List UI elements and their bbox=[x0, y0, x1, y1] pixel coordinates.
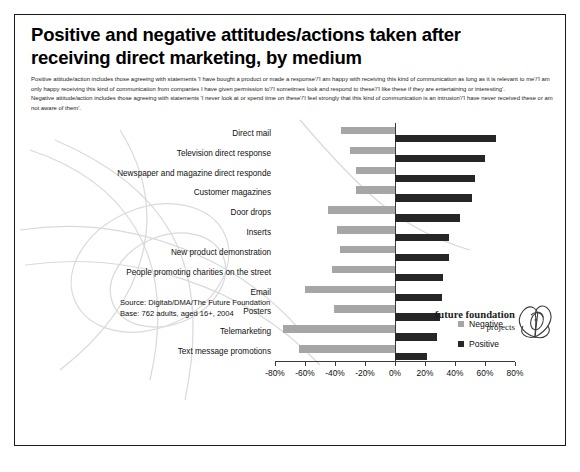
category-label: Newspaper and magazine direct responde bbox=[117, 168, 271, 177]
category-label: People promoting charities on the street bbox=[126, 267, 271, 276]
axis-tick bbox=[515, 362, 516, 366]
bar-positive bbox=[395, 194, 472, 201]
bar-negative bbox=[356, 167, 395, 174]
axis-tick-label: -40% bbox=[325, 368, 345, 378]
page-title: Positive and negative attitudes/actions … bbox=[31, 24, 531, 69]
category-label: Email bbox=[251, 287, 271, 296]
bar-negative bbox=[305, 286, 395, 293]
chart-notes: Positive attitude/action includes those … bbox=[31, 75, 553, 113]
bar-negative bbox=[340, 246, 396, 253]
bar-positive bbox=[395, 135, 496, 142]
bar-positive bbox=[395, 214, 460, 221]
bar-positive bbox=[395, 175, 475, 182]
base-line: Base: 762 adults, aged 16+, 2004 bbox=[120, 308, 270, 319]
axis-tick-label: -80% bbox=[265, 368, 285, 378]
axis-tick bbox=[275, 362, 276, 366]
chart-note-negative: Negative attitude/action includes those … bbox=[31, 94, 553, 113]
source-note: Source: Digitab/DMA/The Future Foundatio… bbox=[120, 297, 270, 319]
bar-positive bbox=[395, 155, 485, 162]
bar-positive bbox=[395, 353, 427, 360]
bar-negative bbox=[337, 226, 396, 233]
category-label: Inserts bbox=[246, 228, 271, 237]
source-line: Source: Digitab/DMA/The Future Foundatio… bbox=[120, 297, 270, 308]
axis-tick-label: 60% bbox=[477, 368, 494, 378]
axis-tick bbox=[335, 362, 336, 366]
logo-wordmark: future foundation bbox=[435, 309, 515, 320]
bar-positive bbox=[395, 254, 449, 261]
bar-negative bbox=[328, 206, 396, 213]
category-label: Text message promotions bbox=[178, 347, 271, 356]
axis-tick bbox=[395, 362, 396, 366]
bar-positive bbox=[395, 274, 443, 281]
slide-frame: Positive and negative attitudes/actions … bbox=[14, 14, 566, 446]
axis-tick-label: -20% bbox=[355, 368, 375, 378]
bar-negative bbox=[283, 325, 396, 332]
axis-tick bbox=[365, 362, 366, 366]
category-label: Direct mail bbox=[232, 128, 271, 137]
bar-negative bbox=[356, 186, 395, 193]
chart-note-positive: Positive attitude/action includes those … bbox=[31, 75, 553, 94]
axis-tick-label: 20% bbox=[417, 368, 434, 378]
butterfly-icon bbox=[511, 299, 559, 347]
axis-tick bbox=[455, 362, 456, 366]
bar-negative bbox=[334, 305, 396, 312]
bar-negative bbox=[341, 127, 395, 134]
bar-negative bbox=[332, 266, 395, 273]
bar-positive bbox=[395, 234, 449, 241]
axis-tick bbox=[425, 362, 426, 366]
category-label: New product demonstration bbox=[171, 247, 271, 256]
future-foundation-logo: future foundation projects bbox=[427, 303, 555, 351]
axis-tick-label: 40% bbox=[447, 368, 464, 378]
category-label: Door drops bbox=[230, 208, 271, 217]
bar-negative bbox=[299, 345, 395, 352]
axis-tick-label: 80% bbox=[507, 368, 524, 378]
category-label: Telemarketing bbox=[220, 327, 271, 336]
category-label: Television direct response bbox=[177, 148, 271, 157]
axis-tick bbox=[485, 362, 486, 366]
category-axis: Direct mailTelevision direct responseNew… bbox=[15, 123, 275, 361]
value-axis: -80%-60%-40%-20%0%20%40%60%80% bbox=[275, 361, 515, 370]
axis-tick bbox=[305, 362, 306, 366]
bar-negative bbox=[350, 147, 395, 154]
axis-tick-label: -60% bbox=[295, 368, 315, 378]
bar-positive bbox=[395, 294, 442, 301]
category-label: Customer magazines bbox=[194, 188, 271, 197]
axis-tick-label: 0% bbox=[389, 368, 401, 378]
